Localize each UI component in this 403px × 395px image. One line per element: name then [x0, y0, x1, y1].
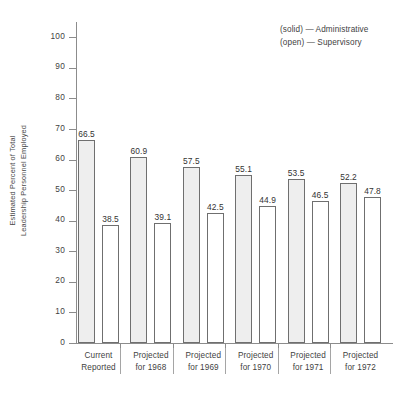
bar-value-label: 66.5 [78, 129, 95, 139]
bar-solid: 57.5 [183, 167, 200, 343]
bar-solid: 66.5 [78, 140, 95, 343]
category-label-line-2: for 1969 [176, 362, 231, 374]
y-axis-line [76, 22, 77, 344]
y-axis-tick-label: 70 [55, 123, 65, 133]
x-axis-category-labels: CurrentReportedProjectedfor 1968Projecte… [76, 350, 393, 390]
category-label-line-1: Current [71, 350, 126, 362]
y-axis-title-line-2: Leadership Personnel Employed [19, 124, 30, 235]
category-label-line-1: Projected [123, 350, 178, 362]
category-label-separator [173, 348, 174, 374]
y-axis-tick-mark [69, 190, 76, 191]
bar-value-label: 44.9 [259, 195, 276, 205]
bar-value-label: 52.2 [340, 172, 357, 182]
y-axis-tick-label: 80 [55, 92, 65, 102]
y-axis-tick-label: 20 [55, 275, 65, 285]
bar-open: 39.1 [154, 223, 171, 343]
x-axis-category-label: CurrentReported [71, 350, 126, 373]
category-label-separator [278, 348, 279, 374]
bar-solid: 53.5 [288, 179, 305, 343]
x-axis-line [76, 343, 393, 344]
category-label-line-2: for 1971 [281, 362, 336, 374]
y-axis-tick-mark [69, 68, 76, 69]
bar-value-label: 57.5 [183, 156, 200, 166]
bar-solid: 55.1 [235, 175, 252, 343]
bar-open: 46.5 [312, 201, 329, 343]
chart-figure: Estimated Percent of Total Leadership Pe… [0, 0, 403, 395]
category-label-separator [225, 348, 226, 374]
y-axis-tick-mark [69, 221, 76, 222]
y-axis-tick-mark [69, 98, 76, 99]
y-axis-tick-mark [69, 312, 76, 313]
x-axis-category-label: Projectedfor 1968 [123, 350, 178, 373]
y-axis-tick-label: 0 [60, 337, 65, 347]
category-label-line-2: for 1972 [333, 362, 388, 374]
y-axis-tick-label: 30 [55, 245, 65, 255]
category-label-line-1: Projected [333, 350, 388, 362]
bar-value-label: 46.5 [312, 190, 329, 200]
y-axis-tick-label: 40 [55, 214, 65, 224]
plot-area: 0102030405060708090100 66.538.560.939.15… [76, 22, 393, 344]
y-axis-tick-mark [69, 251, 76, 252]
y-axis-tick-mark [69, 129, 76, 130]
category-label-line-2: for 1970 [228, 362, 283, 374]
x-axis-category-label: Projectedfor 1972 [333, 350, 388, 373]
category-label-line-1: Projected [176, 350, 231, 362]
bar-open: 44.9 [259, 206, 276, 343]
category-label-line-1: Projected [281, 350, 336, 362]
category-label-line-1: Projected [228, 350, 283, 362]
bar-solid: 52.2 [340, 183, 357, 343]
y-axis-tick-label: 60 [55, 153, 65, 163]
y-axis-tick-label: 90 [55, 61, 65, 71]
category-label-separator [330, 348, 331, 374]
bar-solid: 60.9 [130, 157, 147, 343]
x-axis-category-label: Projectedfor 1970 [228, 350, 283, 373]
bar-open: 42.5 [207, 213, 224, 343]
x-axis-category-label: Projectedfor 1971 [281, 350, 336, 373]
bar-value-label: 55.1 [235, 164, 252, 174]
bar-open: 38.5 [102, 225, 119, 343]
y-axis-tick-mark [69, 343, 76, 344]
y-axis-tick-mark [69, 282, 76, 283]
bar-value-label: 47.8 [364, 186, 381, 196]
bar-open: 47.8 [364, 197, 381, 343]
y-axis-tick-mark [69, 37, 76, 38]
y-axis-tick-label: 100 [51, 31, 65, 41]
y-axis-title-line-1: Estimated Percent of Total [9, 124, 20, 235]
bar-value-label: 60.9 [131, 146, 148, 156]
y-axis-tick-mark [69, 160, 76, 161]
y-axis-title: Estimated Percent of Total Leadership Pe… [4, 0, 34, 360]
category-label-separator [120, 348, 121, 374]
y-axis-tick-label: 10 [55, 306, 65, 316]
category-label-line-2: for 1968 [123, 362, 178, 374]
bar-value-label: 38.5 [102, 214, 119, 224]
bar-value-label: 39.1 [155, 212, 172, 222]
bar-value-label: 53.5 [288, 168, 305, 178]
bar-value-label: 42.5 [207, 202, 224, 212]
y-axis-tick-label: 50 [55, 184, 65, 194]
x-axis-category-label: Projectedfor 1969 [176, 350, 231, 373]
category-label-line-2: Reported [71, 362, 126, 374]
